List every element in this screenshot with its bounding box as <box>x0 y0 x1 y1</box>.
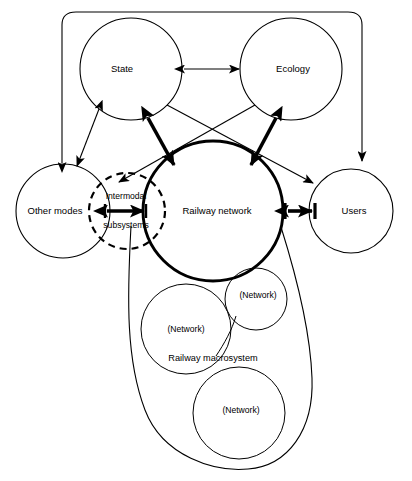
macrosystem-label: Railway macrosystem <box>168 353 258 363</box>
diagram-figure: (Network) (Network) (Network) Railway ma… <box>0 0 412 481</box>
ecology-label: Ecology <box>276 63 310 74</box>
edge-railway-users <box>285 203 315 219</box>
diagram-canvas: (Network) (Network) (Network) Railway ma… <box>0 0 412 481</box>
subnetwork-label-3: (Network) <box>222 405 259 415</box>
node-users[interactable]: Users <box>309 169 393 253</box>
macrosystem-outline-group <box>129 226 312 469</box>
subnetwork-label-1: (Network) <box>167 324 204 334</box>
other-modes-label: Other modes <box>28 205 83 216</box>
edge-intermodal-other-modes <box>105 204 146 218</box>
railway-network-label: Railway network <box>182 205 251 216</box>
node-state[interactable]: State <box>80 18 182 120</box>
node-other-modes[interactable]: Other modes <box>16 164 110 258</box>
edge-ecology-railway <box>251 118 276 165</box>
edge-state-other-modes <box>77 109 99 166</box>
subnetwork-label-2: (Network) <box>239 290 276 300</box>
users-label: Users <box>342 205 367 216</box>
state-label: State <box>111 63 133 74</box>
intermodal-label-line1: Intermodal <box>106 191 147 201</box>
node-ecology[interactable]: Ecology <box>240 18 342 120</box>
intermodal-label-line2: subsystems <box>103 220 148 230</box>
macrosystem-outline <box>129 226 312 469</box>
subnetwork-group: (Network) (Network) (Network) <box>141 268 287 459</box>
